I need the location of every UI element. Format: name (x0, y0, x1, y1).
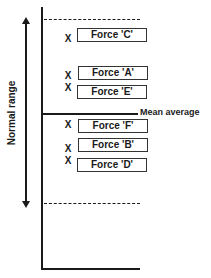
force-e-box: Force 'E' (77, 85, 147, 99)
force-d-box: Force 'D' (77, 158, 147, 172)
mean-average-line (43, 113, 138, 115)
arrow-up-icon (22, 17, 30, 24)
arrow-down-icon (22, 201, 30, 208)
x-marker: X (63, 155, 73, 166)
x-marker: X (63, 119, 73, 130)
force-b-box: Force 'B' (78, 138, 148, 152)
x-marker: X (63, 82, 73, 93)
force-c-box: Force 'C' (77, 28, 147, 42)
normal-range-arrow (25, 20, 27, 205)
x-marker: X (63, 33, 73, 44)
force-a-box: Force 'A' (78, 66, 148, 80)
force-f-box: Force 'F' (78, 119, 148, 133)
x-marker: X (63, 70, 73, 81)
mean-average-label: Mean average (140, 107, 200, 117)
normal-range-label: Normal range (6, 81, 17, 145)
x-marker: X (63, 143, 73, 154)
vertical-axis (41, 7, 43, 270)
horizontal-axis (41, 268, 140, 270)
upper-limit-dashed-line (44, 19, 140, 20)
lower-limit-dashed-line (44, 203, 140, 204)
